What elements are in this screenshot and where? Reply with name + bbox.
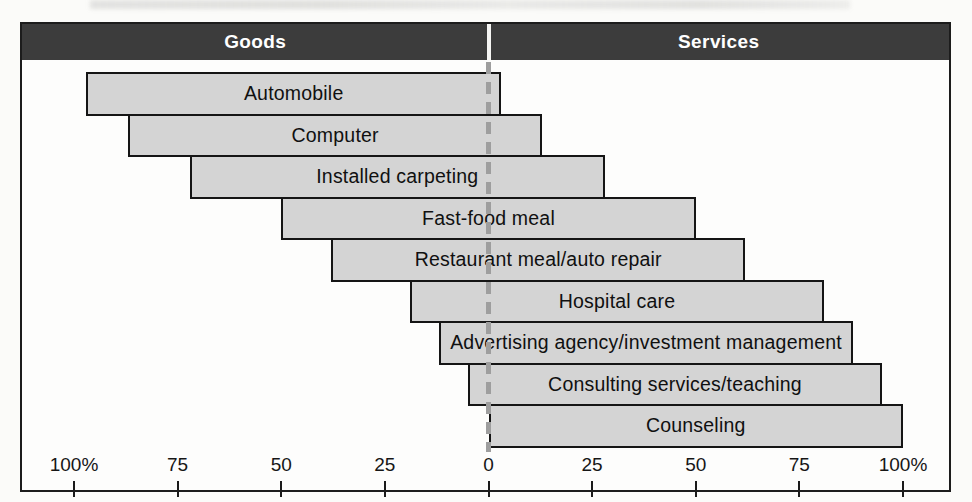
axis-tick [488,481,490,497]
header-band: Goods Services [22,24,949,60]
axis-tick [902,481,904,497]
axis-tick-label: 100% [861,452,945,478]
bar-label: Consulting services/teaching [548,373,802,396]
axis-tick-label: 50 [654,452,738,478]
bar-installed-carpeting: Installed carpeting [190,155,605,199]
axis-tick-label: 50 [239,452,323,478]
axis-tick [695,481,697,497]
bar-computer: Computer [128,114,543,158]
axis-tick-label: 25 [343,452,427,478]
zero-dashed-line [486,62,491,452]
bar-label: Computer [292,124,379,147]
figure-inner: Goods Services AutomobileComputerInstall… [22,24,949,490]
axis-tick-label: 25 [550,452,634,478]
axis-tick [384,481,386,497]
axis-tick [591,481,593,497]
scan-artifact [90,0,850,9]
axis-tick-label: 100% [32,452,116,478]
axis-tick-label: 75 [757,452,841,478]
goods-label: Goods [224,31,286,53]
bar-label: Counseling [646,414,746,437]
bar-automobile: Automobile [86,72,501,116]
axis-tick-label: 75 [136,452,220,478]
axis-tick-label: 0 [447,452,531,478]
bar-label: Advertising agency/investment management [450,331,842,354]
bar-label: Automobile [244,82,344,105]
bar-counseling: Counseling [489,404,904,448]
header-goods-section: Goods [22,24,489,60]
bar-label: Restaurant meal/auto repair [415,248,662,271]
axis-tick [798,481,800,497]
bar-advertising-agency-investment-management: Advertising agency/investment management [439,321,854,365]
bar-consulting-services-teaching: Consulting services/teaching [468,363,883,407]
header-services-section: Services [489,24,950,60]
header-divider [487,24,491,60]
bar-hospital-care: Hospital care [410,280,825,324]
services-label: Services [678,31,759,53]
axis-tick [177,481,179,497]
axis-tick [73,481,75,497]
bar-label: Installed carpeting [316,165,478,188]
axis-tick [280,481,282,497]
goods-services-continuum-figure: Goods Services AutomobileComputerInstall… [20,22,951,492]
bar-restaurant-meal-auto-repair: Restaurant meal/auto repair [331,238,746,282]
bar-label: Hospital care [559,290,675,313]
